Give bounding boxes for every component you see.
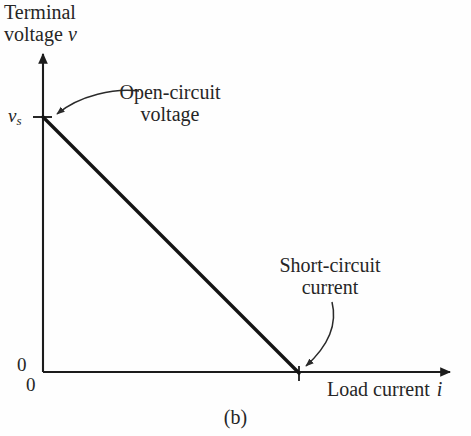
y-axis-title-line1: Terminal [4,1,76,23]
annotation-short-circuit-current: Short-circuitcurrent [265,255,395,298]
x-axis-origin-label: 0 [26,375,36,396]
y-axis-origin-label: 0 [17,355,27,376]
annotation-open-circuit-voltage: Open-circuitvoltage [100,82,240,125]
plot-canvas [0,0,471,436]
x-axis-title-text: Load current [327,378,435,400]
figure-container: Terminalvoltage v Load current i vs 0 0 … [0,0,471,436]
vi-characteristic-line [43,117,299,373]
vs-subscript: s [16,113,21,128]
annotation-open-circuit-line2: voltage [141,103,200,125]
x-axis-title-symbol: i [435,378,443,400]
annotation-short-circuit-line2: current [302,276,359,298]
annotation-short-circuit-line1: Short-circuit [279,254,380,276]
figure-caption: (b) [0,407,471,429]
y-axis-title: Terminalvoltage v [4,2,77,45]
annotation-open-circuit-line1: Open-circuit [119,81,220,103]
y-axis-title-line2: voltage [4,23,68,45]
y-axis-tick-label-vs: vs [8,106,22,128]
x-axis-title: Load current i [327,379,442,401]
y-axis-title-symbol: v [68,23,77,45]
short-circuit-leader-arrow [306,302,334,366]
